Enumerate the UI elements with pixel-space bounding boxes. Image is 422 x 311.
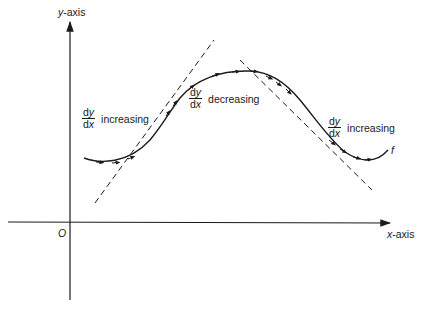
- annotation-right-increasing: dy dx increasing: [328, 116, 395, 139]
- y-axis-label-rest: -axis: [63, 6, 85, 18]
- x-axis-line: [8, 222, 390, 223]
- derivative-fraction: dy dx: [82, 107, 95, 130]
- fraction-denominator-var: x: [196, 98, 201, 110]
- annotation-left-increasing: dy dx increasing: [82, 107, 149, 130]
- derivative-fraction: dy dx: [328, 116, 341, 139]
- arrow-icon: [128, 157, 133, 159]
- arrow-icon: [232, 72, 238, 73]
- origin-label: O: [58, 228, 66, 239]
- annotation-text: increasing: [101, 113, 149, 125]
- fraction-numerator-var: y: [196, 86, 201, 98]
- arrow-icon: [364, 160, 370, 161]
- fraction-numerator-var: y: [335, 115, 340, 127]
- fraction-numerator-var: y: [89, 106, 94, 118]
- fraction-denominator-var: x: [89, 118, 94, 130]
- arrow-icon: [112, 163, 118, 164]
- x-axis-label: x-axis: [387, 229, 414, 240]
- x-axis-label-rest: -axis: [392, 228, 414, 240]
- curve-label: f: [391, 145, 394, 156]
- fraction-denominator-var: x: [335, 127, 340, 139]
- arrow-icon: [276, 82, 280, 85]
- annotation-text: increasing: [347, 122, 395, 134]
- derivative-diagram: [0, 0, 422, 311]
- annotation-middle-decreasing: dy dx decreasing: [189, 87, 259, 110]
- annotation-text: decreasing: [208, 93, 259, 105]
- derivative-fraction: dy dx: [189, 87, 202, 110]
- arrow-icon: [250, 71, 256, 72]
- y-axis-label: y-axis: [58, 7, 85, 18]
- arrow-icon: [96, 162, 102, 163]
